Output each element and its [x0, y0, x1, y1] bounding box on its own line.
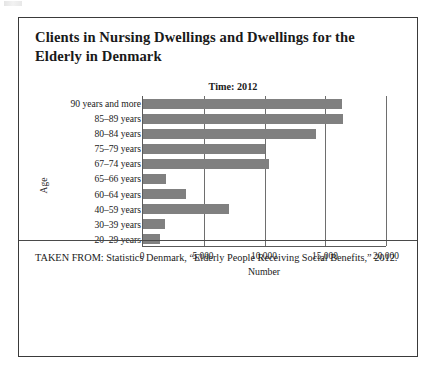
page-artifact [4, 1, 22, 6]
bar [143, 159, 269, 169]
bar [143, 99, 342, 109]
chart-subtitle: Time: 2012 [19, 81, 419, 92]
y-axis-tick-label: 40–59 years [37, 202, 141, 217]
bar [143, 219, 165, 229]
bar-row [143, 217, 386, 232]
y-axis-tick-label: 67–74 years [37, 156, 141, 171]
y-axis-tick-label: 65–66 years [37, 171, 141, 186]
bar-row [143, 141, 386, 156]
y-axis-tick-label: 75–79 years [37, 141, 141, 156]
plot-area [142, 96, 386, 247]
y-axis-tick-label: 30–39 years [37, 217, 141, 232]
bar [143, 129, 316, 139]
bar [143, 114, 343, 124]
x-axis-label: Number [142, 266, 386, 277]
bar [143, 144, 265, 154]
grid-line [386, 96, 387, 246]
figure-container: Clients in Nursing Dwellings and Dwellin… [18, 17, 418, 357]
bar [143, 189, 186, 199]
y-axis-tick-labels: 90 years and more85–89 years80–84 years7… [37, 96, 141, 247]
chart-area: Age 90 years and more85–89 years80–84 ye… [19, 96, 419, 296]
y-axis-tick-label: 60–64 years [37, 187, 141, 202]
bar-row [143, 187, 386, 202]
figure-title: Clients in Nursing Dwellings and Dwellin… [35, 28, 385, 67]
y-axis-tick-label: 85–89 years [37, 111, 141, 126]
bar-row [143, 126, 386, 141]
y-axis-tick-label: 80–84 years [37, 126, 141, 141]
bar-row [143, 111, 386, 126]
bar-row [143, 202, 386, 217]
bar-row [143, 171, 386, 186]
source-divider [19, 240, 417, 241]
bar-row [143, 96, 386, 111]
bar [143, 174, 166, 184]
bar-series [143, 96, 386, 246]
y-axis-tick-label: 90 years and more [37, 96, 141, 111]
source-attribution: TAKEN FROM: Statistics Denmark, “Elderly… [35, 251, 401, 266]
bar-row [143, 156, 386, 171]
bar [143, 204, 229, 214]
